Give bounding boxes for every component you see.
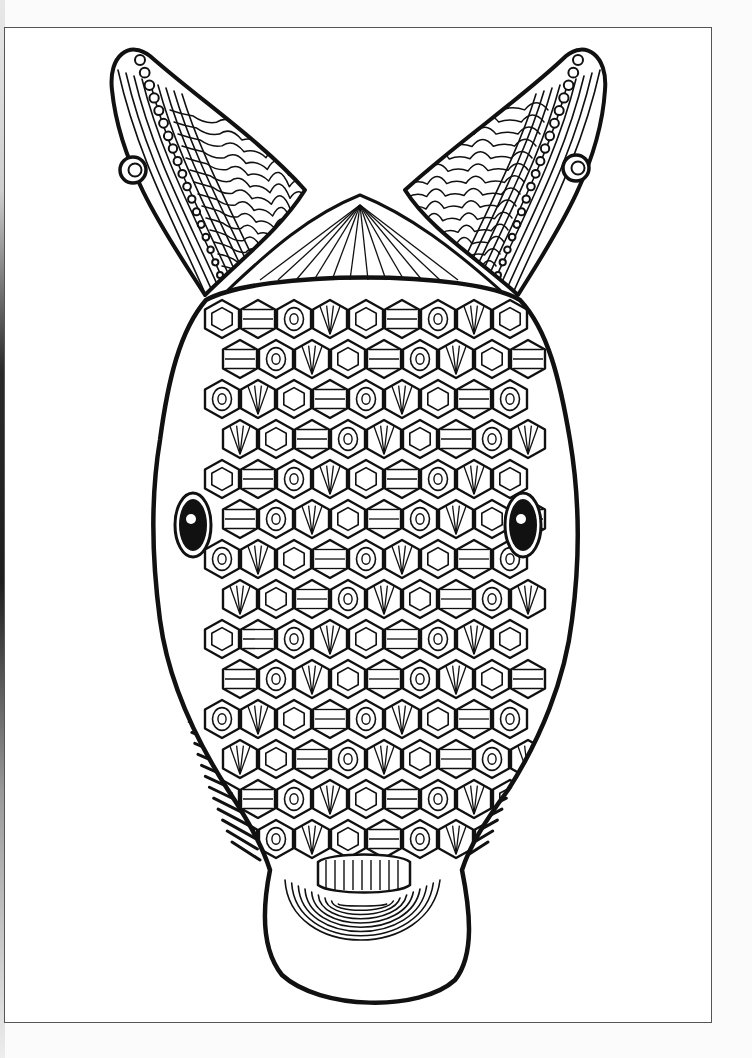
head	[153, 195, 578, 1003]
armadillo-illustration	[0, 0, 752, 1058]
